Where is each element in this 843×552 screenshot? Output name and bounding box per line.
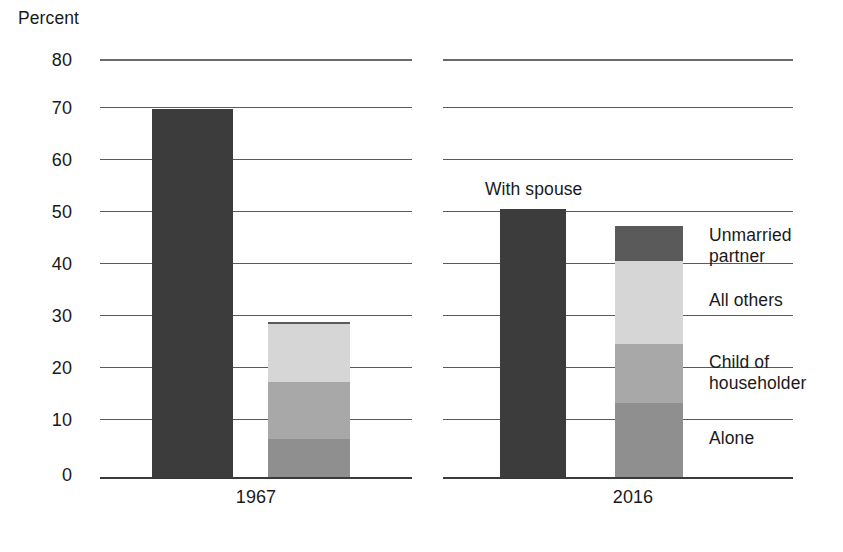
legend-label-alone-line1: Alone bbox=[709, 428, 754, 449]
y-tick-label-10: 10 bbox=[14, 411, 72, 429]
y-tick-label-30: 30 bbox=[14, 307, 72, 325]
gridline-40 bbox=[100, 263, 412, 264]
segment-1967-alone bbox=[268, 439, 350, 477]
y-tick-label-60: 60 bbox=[14, 151, 72, 169]
panel-1967: 1967 bbox=[100, 0, 412, 552]
y-tick-label-80: 80 bbox=[14, 51, 72, 69]
legend-entry-all-others: All others bbox=[709, 290, 783, 311]
gridline-50 bbox=[100, 211, 412, 212]
bar-chart: Percent 80 70 60 50 40 30 20 10 0 1967 bbox=[0, 0, 843, 552]
legend-label-unmarried-partner-line1: Unmarried bbox=[709, 225, 792, 246]
segment-2016-alone bbox=[615, 403, 683, 477]
segment-1967-child-of-householder bbox=[268, 382, 350, 439]
y-tick-label-40: 40 bbox=[14, 255, 72, 273]
legend-label-child-of-householder-line1: Child of bbox=[709, 352, 806, 373]
bar-2016-with-spouse bbox=[500, 209, 566, 477]
segment-2016-unmarried-partner bbox=[615, 226, 683, 261]
segment-2016-all-others bbox=[615, 261, 683, 344]
gridline-20 bbox=[100, 367, 412, 368]
y-tick-label-70: 70 bbox=[14, 99, 72, 117]
gridline-60 bbox=[100, 159, 412, 160]
axis-baseline-2016 bbox=[443, 477, 793, 479]
bar-1967-living-arrangements bbox=[268, 322, 350, 477]
x-tick-label-2016: 2016 bbox=[533, 487, 733, 508]
legend-label-unmarried-partner-line2: partner bbox=[709, 246, 792, 267]
gridline-60-2016 bbox=[443, 159, 793, 160]
legend-label-all-others-line1: All others bbox=[709, 290, 783, 311]
x-tick-label-1967: 1967 bbox=[156, 487, 356, 508]
legend-label-child-of-householder-line2: householder bbox=[709, 373, 806, 394]
bar-2016-living-arrangements bbox=[615, 226, 683, 477]
y-tick-label-50: 50 bbox=[14, 203, 72, 221]
segment-2016-child-of-householder bbox=[615, 344, 683, 403]
gridline-10 bbox=[100, 419, 412, 420]
gridline-30 bbox=[100, 315, 412, 316]
gridline-50-2016 bbox=[443, 211, 793, 212]
legend-entry-unmarried-partner: Unmarried partner bbox=[709, 225, 792, 267]
legend-entry-alone: Alone bbox=[709, 428, 754, 449]
gridline-70 bbox=[100, 107, 412, 108]
y-tick-label-0: 0 bbox=[14, 466, 72, 484]
legend-entry-child-of-householder: Child of householder bbox=[709, 352, 806, 394]
segment-1967-with-spouse bbox=[152, 109, 233, 477]
gridline-80 bbox=[100, 59, 412, 61]
segment-1967-all-others bbox=[268, 324, 350, 382]
annotation-with-spouse: With spouse bbox=[485, 179, 582, 200]
y-tick-label-20: 20 bbox=[14, 359, 72, 377]
segment-1967-unmarried-partner bbox=[268, 322, 350, 325]
panel-2016: With spouse 2016 bbox=[443, 0, 793, 552]
y-axis-title: Percent bbox=[18, 8, 79, 29]
axis-baseline bbox=[100, 477, 412, 479]
gridline-80-2016 bbox=[443, 59, 793, 61]
segment-2016-with-spouse bbox=[500, 209, 566, 477]
gridline-70-2016 bbox=[443, 107, 793, 108]
bar-1967-with-spouse-body bbox=[152, 109, 233, 477]
